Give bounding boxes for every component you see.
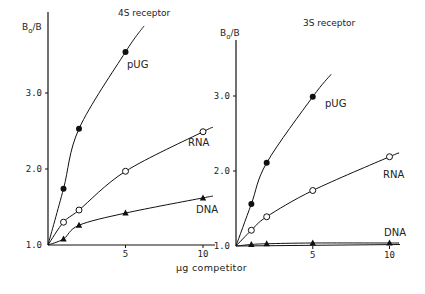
competition-binding-chart: 4S receptorBo/B1.02.03.0510pUGRNADNA3S r… xyxy=(0,0,425,294)
data-point xyxy=(61,219,67,225)
data-point xyxy=(200,129,206,135)
series-dna: DNA xyxy=(236,227,406,247)
data-point xyxy=(264,214,270,220)
y-tick-label: 2.0 xyxy=(214,166,230,176)
y-tick-label: 3.0 xyxy=(214,91,230,101)
x-tick-label: 5 xyxy=(123,249,128,259)
data-point xyxy=(123,168,129,174)
y-tick-label: 1.0 xyxy=(26,240,42,250)
x-tick-label: 5 xyxy=(310,250,315,260)
y-axis-label: Bo/B xyxy=(22,22,42,35)
data-point xyxy=(310,94,316,100)
series-label: RNA xyxy=(188,137,209,148)
data-point xyxy=(76,207,82,213)
data-point xyxy=(310,188,316,194)
data-point xyxy=(264,160,270,166)
x-axis xyxy=(236,245,400,247)
series-label: RNA xyxy=(383,169,404,180)
series-pug: pUG xyxy=(236,74,346,246)
data-point xyxy=(123,49,129,55)
series-pug: pUG xyxy=(48,26,148,245)
data-point xyxy=(61,186,67,192)
series-label: pUG xyxy=(325,98,346,109)
y-tick-label: 3.0 xyxy=(26,88,42,98)
data-point xyxy=(248,227,254,233)
series-label: pUG xyxy=(127,59,148,70)
x-axis-label: µg competitor xyxy=(176,262,247,273)
data-point xyxy=(387,154,393,160)
chart-title: 4S receptor xyxy=(118,8,171,18)
series-label: DNA xyxy=(196,204,218,215)
series-rna: RNA xyxy=(236,153,404,246)
chart-panel-4s: 4S receptorBo/B1.02.03.0510pUGRNADNA xyxy=(22,8,218,259)
y-axis-label: Bo/B xyxy=(220,28,240,41)
data-point xyxy=(248,201,254,207)
y-tick-label: 2.0 xyxy=(26,164,42,174)
x-tick-label: 10 xyxy=(384,250,395,260)
chart-panel-3s: 3S receptorBo/B1.02.03.0510pUGRNADNA xyxy=(214,18,406,260)
data-point xyxy=(76,126,82,132)
chart-title: 3S receptor xyxy=(303,18,356,28)
series-dna: DNA xyxy=(48,194,218,245)
y-tick-label: 1.0 xyxy=(214,241,230,251)
x-tick-label: 10 xyxy=(198,249,209,259)
series-label: DNA xyxy=(384,227,406,238)
